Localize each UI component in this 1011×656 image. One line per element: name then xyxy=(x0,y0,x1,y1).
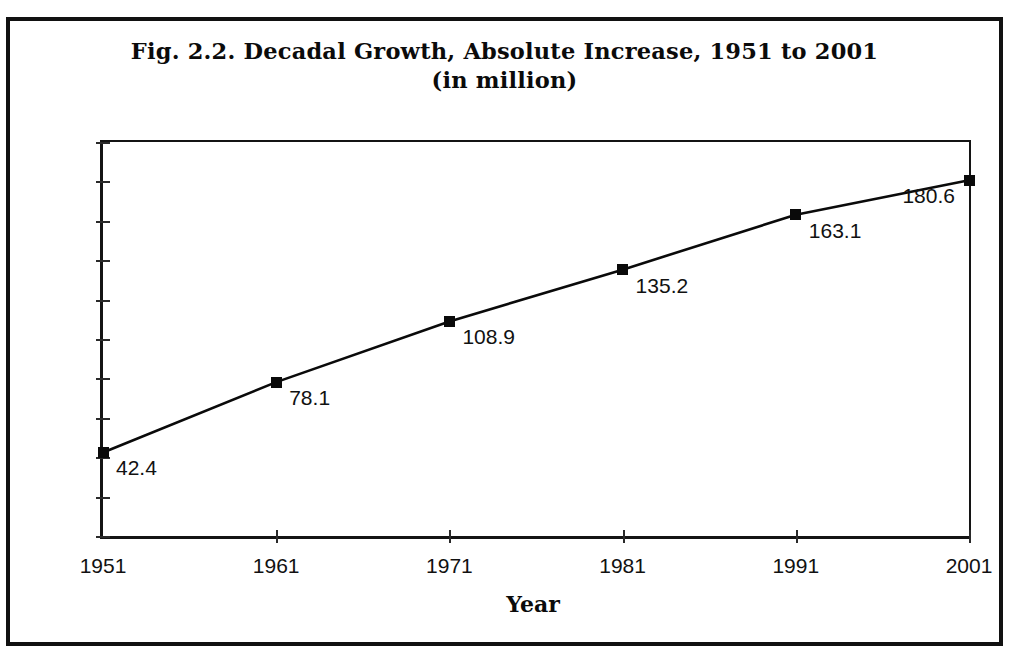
plot-area: 0.020.040.060.080.0100.0120.0140.0160.01… xyxy=(100,140,971,539)
data-point-label: 78.1 xyxy=(289,386,330,410)
data-point-marker[interactable] xyxy=(98,447,109,458)
x-axis-tick-label: 1971 xyxy=(389,554,509,578)
x-axis-tick xyxy=(276,530,278,543)
data-point-marker[interactable] xyxy=(444,316,455,327)
x-axis-tick-label: 1991 xyxy=(736,554,856,578)
y-axis-tick xyxy=(96,221,110,223)
y-axis-tick xyxy=(96,418,110,420)
data-point-label: 42.4 xyxy=(116,456,157,480)
y-axis-tick xyxy=(96,339,110,341)
y-axis-tick xyxy=(96,142,110,144)
figure-outer-border: Fig. 2.2. Decadal Growth, Absolute Incre… xyxy=(6,17,1003,646)
data-point-label: 108.9 xyxy=(462,325,515,349)
x-axis-title: Year xyxy=(100,591,966,617)
x-axis-tick xyxy=(796,530,798,543)
y-axis-tick xyxy=(96,378,110,380)
y-axis-tick xyxy=(96,497,110,499)
chart-title: Fig. 2.2. Decadal Growth, Absolute Incre… xyxy=(10,37,999,95)
data-point-label: 135.2 xyxy=(636,274,689,298)
data-point-marker[interactable] xyxy=(790,209,801,220)
data-point-label: 180.6 xyxy=(902,184,955,208)
line-series-layer xyxy=(103,142,969,536)
x-axis-tick-label: 1961 xyxy=(216,554,336,578)
x-axis-tick-label: 1981 xyxy=(563,554,683,578)
x-axis-tick-label: 2001 xyxy=(909,554,1011,578)
y-axis-tick xyxy=(96,536,110,538)
x-axis-tick-label: 1951 xyxy=(43,554,163,578)
y-axis-tick xyxy=(96,260,110,262)
plot-inner: 0.020.040.060.080.0100.0120.0140.0160.01… xyxy=(103,142,969,536)
y-axis-tick xyxy=(96,300,110,302)
data-point-label: 163.1 xyxy=(809,219,862,243)
x-axis-tick xyxy=(623,530,625,543)
data-point-marker[interactable] xyxy=(617,264,628,275)
y-axis-tick xyxy=(96,181,110,183)
x-axis-tick xyxy=(449,530,451,543)
chart-title-line1: Fig. 2.2. Decadal Growth, Absolute Incre… xyxy=(131,38,878,64)
chart-title-line2: (in million) xyxy=(10,66,999,95)
data-point-marker[interactable] xyxy=(964,175,975,186)
x-axis-tick xyxy=(969,530,971,543)
data-point-marker[interactable] xyxy=(271,377,282,388)
